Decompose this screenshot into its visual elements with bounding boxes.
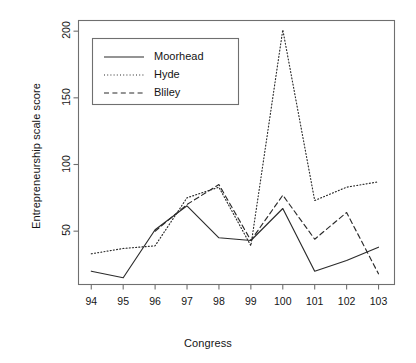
x-tick-label: 101	[306, 295, 324, 307]
y-tick-label: 200	[60, 10, 72, 50]
legend-label-hyde: Hyde	[154, 68, 180, 80]
x-tick-label: 102	[338, 295, 356, 307]
legend-label-bliley: Bliley	[154, 86, 180, 98]
x-tick-label: 103	[370, 295, 388, 307]
legend-label-moorhead: Moorhead	[154, 50, 204, 62]
y-axis-title: Entrepreneurship scale score	[30, 36, 42, 276]
y-tick-label: 50	[60, 210, 72, 250]
y-tick-label: 150	[60, 77, 72, 117]
x-tick-label: 95	[117, 295, 129, 307]
x-tick-label: 99	[245, 295, 257, 307]
x-tick-label: 94	[85, 295, 97, 307]
x-tick-label: 96	[149, 295, 161, 307]
x-axis-title: Congress	[0, 337, 416, 349]
x-tick-label: 97	[181, 295, 193, 307]
x-tick-label: 98	[213, 295, 225, 307]
x-tick-label: 100	[274, 295, 292, 307]
y-tick-label: 100	[60, 144, 72, 184]
series-line-bliley	[155, 185, 378, 274]
chart-figure: Entrepreneurship scale score Congress 94…	[0, 0, 416, 363]
